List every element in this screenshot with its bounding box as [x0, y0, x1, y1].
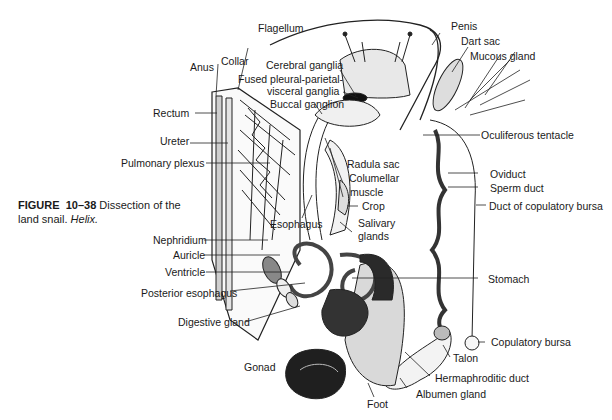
label-oculiferous-tentacle: Oculiferous tentacle — [481, 129, 574, 141]
figure-caption: FIGURE 10–38 Dissection of the land snai… — [18, 198, 188, 226]
label-copulatory-bursa: Copulatory bursa — [491, 336, 571, 348]
label-albumen-gland: Albumen gland — [416, 388, 486, 400]
label-crop: Crop — [362, 200, 385, 212]
label-anus: Anus — [190, 61, 214, 73]
label-ventricle: Ventricle — [165, 266, 205, 278]
label-flagellum: Flagellum — [258, 22, 304, 34]
label-auricle: Auricle — [173, 249, 205, 261]
label-fused-ganglia-2: visceral ganglia — [267, 85, 339, 97]
label-sperm-duct: Sperm duct — [490, 182, 544, 194]
label-mucous-gland: Mucous gland — [470, 50, 535, 62]
snail-dissection-figure: FIGURE 10–38 Dissection of the land snai… — [0, 0, 612, 420]
label-radula-sac: Radula sac — [347, 158, 400, 170]
label-rectum: Rectum — [153, 107, 189, 119]
caption-genus: Helix. — [71, 213, 99, 225]
label-dart-sac: Dart sac — [461, 35, 500, 47]
label-hermaphroditic-duct: Hermaphroditic duct — [435, 372, 529, 384]
label-nephridium: Nephridium — [153, 234, 207, 246]
label-gonad: Gonad — [244, 361, 276, 373]
label-stomach: Stomach — [488, 273, 529, 285]
figure-number: 10–38 — [66, 199, 97, 211]
label-oviduct: Oviduct — [490, 168, 526, 180]
label-columellar-1: Columellar — [349, 172, 399, 184]
label-esophagus: Esophagus — [270, 218, 323, 230]
label-columellar-2: muscle — [350, 186, 383, 198]
label-penis: Penis — [451, 20, 477, 32]
label-buccal-ganglion: Buccal ganglion — [270, 98, 344, 110]
label-cerebral-ganglia: Cerebral ganglia — [266, 59, 343, 71]
label-collar: Collar — [221, 55, 248, 67]
label-salivary-1: Salivary — [358, 217, 395, 229]
label-foot: Foot — [367, 398, 388, 410]
label-posterior-esophagus: Posterior esophagus — [141, 287, 237, 299]
figure-label: FIGURE — [18, 199, 60, 211]
label-digestive-gland: Digestive gland — [178, 316, 250, 328]
label-ureter: Ureter — [160, 135, 189, 147]
label-salivary-2: glands — [358, 230, 389, 242]
label-fused-ganglia-1: Fused pleural-parietal- — [238, 73, 343, 85]
label-duct-copulatory-bursa: Duct of copulatory bursa — [489, 200, 603, 212]
label-talon: Talon — [453, 352, 478, 364]
label-pulmonary-plexus: Pulmonary plexus — [121, 157, 204, 169]
